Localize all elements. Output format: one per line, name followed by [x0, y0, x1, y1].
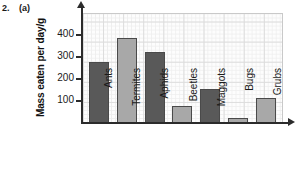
- x-axis-arrow-icon: [288, 118, 295, 126]
- y-tick-label-300: 300: [34, 50, 74, 61]
- y-tick-label-100: 100: [34, 94, 74, 105]
- question-number: 2.: [2, 3, 10, 13]
- bar-chart-figure: 2. (a) Mass eaten per day/g 100200300400…: [0, 0, 302, 184]
- x-axis-label-maggots: Maggots: [216, 68, 227, 128]
- y-tick-label-400: 400: [34, 28, 74, 39]
- x-axis-label-ants: Ants: [103, 68, 114, 128]
- y-axis-line: [81, 6, 83, 123]
- y-axis-title: Mass eaten per day/g: [35, 5, 46, 131]
- y-tick-300: [76, 56, 82, 57]
- y-tick-label-200: 200: [34, 72, 74, 83]
- x-axis-label-termites: Termites: [131, 68, 142, 128]
- y-tick-100: [76, 100, 82, 101]
- x-axis-label-aphids: Aphids: [159, 68, 170, 128]
- y-axis-arrow-icon: [77, 1, 85, 8]
- x-axis-label-beetles: Beetles: [188, 68, 199, 128]
- question-part-label: (a): [19, 3, 30, 13]
- y-tick-400: [76, 34, 82, 35]
- x-axis-label-bugs: Bugs: [244, 68, 255, 128]
- x-axis-label-grubs: Grubs: [272, 68, 283, 128]
- y-tick-200: [76, 78, 82, 79]
